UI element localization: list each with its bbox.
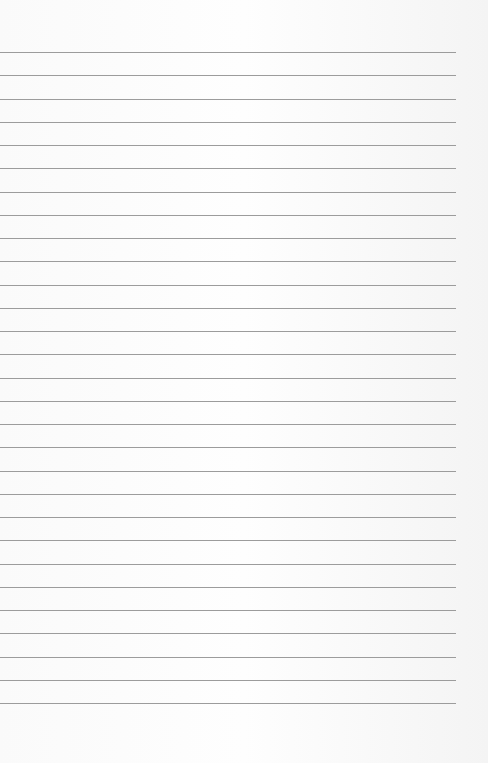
- ruled-line: [0, 447, 456, 448]
- ruled-line: [0, 517, 456, 518]
- ruled-line: [0, 471, 456, 472]
- ruled-line: [0, 145, 456, 146]
- ruled-line: [0, 168, 456, 169]
- ruled-line: [0, 52, 456, 53]
- ruled-line: [0, 564, 456, 565]
- ruled-line: [0, 238, 456, 239]
- ruled-line: [0, 285, 456, 286]
- ruled-line: [0, 657, 456, 658]
- ruled-line: [0, 75, 456, 76]
- ruled-line: [0, 308, 456, 309]
- ruled-line: [0, 354, 456, 355]
- ruled-line: [0, 99, 456, 100]
- ruled-line: [0, 494, 456, 495]
- ruled-line: [0, 192, 456, 193]
- ruled-line: [0, 331, 456, 332]
- ruled-line: [0, 378, 456, 379]
- ruled-line: [0, 610, 456, 611]
- ruled-line: [0, 587, 456, 588]
- ruled-line: [0, 424, 456, 425]
- ruled-line: [0, 401, 456, 402]
- ruled-line: [0, 122, 456, 123]
- ruled-line: [0, 633, 456, 634]
- ruled-line: [0, 540, 456, 541]
- ruled-line: [0, 261, 456, 262]
- ruled-line: [0, 680, 456, 681]
- ruled-line: [0, 703, 456, 704]
- ruled-paper-sheet: [0, 0, 488, 763]
- ruled-line: [0, 215, 456, 216]
